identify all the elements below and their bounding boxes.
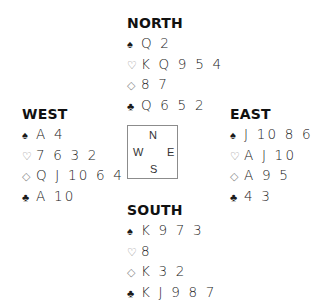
cards-spades: A 4 bbox=[36, 124, 65, 145]
suit-row-hearts: ♡8 bbox=[127, 241, 217, 262]
hand-south: SOUTH ♠K 9 7 3 ♡8 ◇K 3 2 ♣K J 9 8 7 bbox=[127, 200, 217, 302]
cards-spades: K 9 7 3 bbox=[141, 220, 204, 241]
hand-title-west: WEST bbox=[22, 104, 124, 124]
cards-hearts: 7 6 3 2 bbox=[36, 145, 99, 166]
club-icon: ♣ bbox=[127, 97, 141, 118]
spade-icon: ♠ bbox=[22, 126, 36, 147]
suit-row-spades: ♠J 10 8 6 5 bbox=[230, 124, 319, 145]
spade-icon: ♠ bbox=[127, 222, 141, 243]
suit-row-hearts: ♡7 6 3 2 bbox=[22, 145, 124, 166]
cards-clubs: 4 3 bbox=[244, 186, 272, 207]
cards-clubs: A 10 bbox=[36, 186, 76, 207]
hand-east: EAST ♠J 10 8 6 5 ♡A J 10 ◇A 9 5 ♣4 3 bbox=[230, 104, 319, 206]
compass-west-label: W bbox=[133, 146, 143, 158]
spade-icon: ♠ bbox=[127, 35, 141, 56]
hand-title-east: EAST bbox=[230, 104, 319, 124]
club-icon: ♣ bbox=[22, 188, 36, 209]
cards-hearts: 8 bbox=[141, 241, 152, 262]
cards-spades: Q 2 bbox=[141, 33, 171, 54]
diamond-icon: ◇ bbox=[127, 76, 141, 97]
hand-west: WEST ♠A 4 ♡7 6 3 2 ◇Q J 10 6 4 ♣A 10 bbox=[22, 104, 124, 206]
cards-clubs: K J 9 8 7 bbox=[141, 282, 217, 303]
suit-row-spades: ♠Q 2 bbox=[127, 33, 223, 54]
compass-east-label: E bbox=[167, 146, 174, 158]
suit-row-diamonds: ◇K 3 2 bbox=[127, 261, 217, 282]
spade-icon: ♠ bbox=[230, 126, 244, 147]
compass-north-label: N bbox=[149, 129, 157, 141]
compass-box: N W E S bbox=[127, 125, 178, 179]
suit-row-clubs: ♣A 10 bbox=[22, 186, 124, 207]
suit-row-clubs: ♣Q 6 5 2 bbox=[127, 95, 223, 116]
hand-title-north: NORTH bbox=[127, 13, 223, 33]
hand-title-south: SOUTH bbox=[127, 200, 217, 220]
suit-row-hearts: ♡A J 10 bbox=[230, 145, 319, 166]
suit-row-diamonds: ◇8 7 bbox=[127, 74, 223, 95]
suit-row-diamonds: ◇Q J 10 6 4 bbox=[22, 165, 124, 186]
heart-icon: ♡ bbox=[22, 147, 36, 168]
heart-icon: ♡ bbox=[230, 147, 244, 168]
heart-icon: ♡ bbox=[127, 56, 141, 77]
suit-row-diamonds: ◇A 9 5 bbox=[230, 165, 319, 186]
cards-hearts: K Q 9 5 4 bbox=[141, 54, 223, 75]
cards-clubs: Q 6 5 2 bbox=[141, 95, 206, 116]
diamond-icon: ◇ bbox=[22, 167, 36, 188]
suit-row-clubs: ♣4 3 bbox=[230, 186, 319, 207]
heart-icon: ♡ bbox=[127, 243, 141, 264]
suit-row-spades: ♠A 4 bbox=[22, 124, 124, 145]
diamond-icon: ◇ bbox=[127, 263, 141, 284]
compass-south-label: S bbox=[150, 163, 157, 175]
cards-spades: J 10 8 6 5 bbox=[244, 124, 319, 145]
cards-hearts: A J 10 bbox=[244, 145, 296, 166]
club-icon: ♣ bbox=[230, 188, 244, 209]
suit-row-clubs: ♣K J 9 8 7 bbox=[127, 282, 217, 303]
suit-row-spades: ♠K 9 7 3 bbox=[127, 220, 217, 241]
cards-diamonds: Q J 10 6 4 bbox=[36, 165, 124, 186]
hand-north: NORTH ♠Q 2 ♡K Q 9 5 4 ◇8 7 ♣Q 6 5 2 bbox=[127, 13, 223, 115]
cards-diamonds: A 9 5 bbox=[244, 165, 290, 186]
suit-row-hearts: ♡K Q 9 5 4 bbox=[127, 54, 223, 75]
club-icon: ♣ bbox=[127, 284, 141, 305]
cards-diamonds: K 3 2 bbox=[141, 261, 187, 282]
cards-diamonds: 8 7 bbox=[141, 74, 169, 95]
diamond-icon: ◇ bbox=[230, 167, 244, 188]
